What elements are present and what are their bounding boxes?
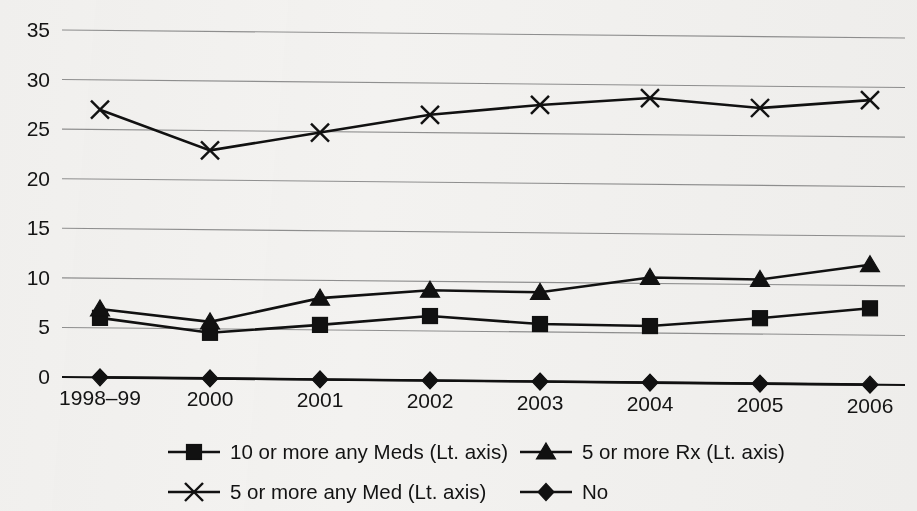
y-tick-label: 0 xyxy=(38,365,50,388)
x-tick-label: 2006 xyxy=(847,394,894,417)
marker-diamond xyxy=(642,374,658,391)
marker-square xyxy=(753,311,768,326)
x-axis-tick-labels: 1998–992000200120022003200420052006 xyxy=(59,386,893,416)
series-line xyxy=(100,98,870,150)
marker-diamond xyxy=(202,370,218,387)
line-chart: 05101520253035 1998–99200020012002200320… xyxy=(0,0,917,511)
legend-label: 5 or more Rx (Lt. axis) xyxy=(582,440,785,463)
marker-diamond xyxy=(312,371,328,388)
gridline-35 xyxy=(62,30,905,38)
y-tick-label: 35 xyxy=(27,18,50,41)
y-tick-label: 25 xyxy=(27,117,50,140)
chart-legend: 10 or more any Meds (Lt. axis)5 or more … xyxy=(168,440,785,503)
x-tick-label: 2002 xyxy=(407,389,454,412)
legend-entry[interactable]: 10 or more any Meds (Lt. axis) xyxy=(168,440,508,463)
series-3 xyxy=(91,89,879,159)
marker-cross-x xyxy=(91,101,109,119)
marker-square xyxy=(533,317,548,332)
legend-entry[interactable]: No xyxy=(520,480,608,503)
marker-square xyxy=(643,319,658,334)
legend-label: No xyxy=(582,480,608,503)
marker-square xyxy=(423,309,438,324)
gridline-30 xyxy=(62,80,905,88)
y-tick-label: 20 xyxy=(27,167,50,190)
x-tick-label: 2004 xyxy=(627,392,674,415)
y-tick-label: 5 xyxy=(38,315,50,338)
marker-triangle xyxy=(861,256,880,272)
x-tick-label: 2005 xyxy=(737,393,784,416)
gridline-25 xyxy=(62,129,905,137)
marker-square xyxy=(187,445,202,460)
y-tick-label: 10 xyxy=(27,266,50,289)
legend-label: 10 or more any Meds (Lt. axis) xyxy=(230,440,508,463)
legend-entry[interactable]: 5 or more any Med (Lt. axis) xyxy=(168,480,486,503)
x-tick-label: 2000 xyxy=(187,387,234,410)
gridline-10 xyxy=(62,278,905,286)
y-tick-label: 30 xyxy=(27,68,50,91)
data-series-group xyxy=(91,89,880,393)
marker-diamond xyxy=(538,484,554,501)
marker-diamond xyxy=(422,372,438,389)
gridline-20 xyxy=(62,179,905,187)
gridlines-group xyxy=(62,30,905,385)
gridline-15 xyxy=(62,228,905,236)
x-tick-label: 2001 xyxy=(297,388,344,411)
marker-diamond xyxy=(862,376,878,393)
x-tick-label: 1998–99 xyxy=(59,386,141,409)
marker-triangle xyxy=(91,300,110,316)
marker-square xyxy=(863,301,878,316)
x-tick-label: 2003 xyxy=(517,391,564,414)
marker-square xyxy=(313,317,328,332)
chart-canvas: 05101520253035 1998–99200020012002200320… xyxy=(0,0,917,511)
y-tick-label: 15 xyxy=(27,216,50,239)
y-axis-tick-labels: 05101520253035 xyxy=(27,18,50,388)
marker-diamond xyxy=(752,375,768,392)
marker-diamond xyxy=(92,369,108,386)
legend-label: 5 or more any Med (Lt. axis) xyxy=(230,480,486,503)
marker-diamond xyxy=(532,373,548,390)
legend-entry[interactable]: 5 or more Rx (Lt. axis) xyxy=(520,440,785,463)
